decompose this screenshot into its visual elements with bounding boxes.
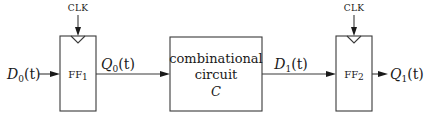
q1-label: Q1(t) <box>390 66 424 84</box>
circuit-diagram: FF1 CLK D0(t) Q0(t) combinational circui… <box>0 0 430 120</box>
d0-label: D0(t) <box>6 66 41 84</box>
combinational-line2: circuit <box>195 67 238 82</box>
d1-signal: D1(t) <box>262 56 336 77</box>
d0-input: D0(t) <box>6 66 60 84</box>
q0-label: Q0(t) <box>101 56 135 74</box>
flip-flop-1: FF1 <box>60 36 96 111</box>
d0-arrow-icon <box>50 71 60 77</box>
q0-signal: Q0(t) <box>96 56 170 77</box>
q0-arrow-icon <box>160 71 170 77</box>
q1-arrow-icon <box>378 71 388 77</box>
d1-label: D1(t) <box>273 56 308 74</box>
d1-arrow-icon <box>326 71 336 77</box>
clk-label-2: CLK <box>344 3 365 13</box>
clk-arrow-1-icon <box>75 27 81 36</box>
clk-input-1: CLK <box>68 3 89 36</box>
clk-arrow-2-icon <box>351 27 357 36</box>
combinational-line3: C <box>211 84 221 99</box>
clk-input-2: CLK <box>344 3 365 36</box>
q1-output: Q1(t) <box>372 66 424 84</box>
flip-flop-2: FF2 <box>336 36 372 111</box>
clk-label-1: CLK <box>68 3 89 13</box>
combinational-line1: combinational <box>169 51 263 66</box>
combinational-circuit: combinational circuit C <box>169 37 263 111</box>
